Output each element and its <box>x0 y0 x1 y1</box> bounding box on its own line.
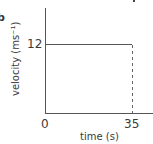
x-tick-0: 0 <box>41 118 49 130</box>
cropped-mark <box>133 0 135 2</box>
y-axis-title: velocity (ms⁻¹) <box>11 22 21 96</box>
x-tick-35: 35 <box>124 118 139 130</box>
x-axis-title: time (s) <box>80 132 119 142</box>
y-tick-12: 12 <box>27 38 42 50</box>
